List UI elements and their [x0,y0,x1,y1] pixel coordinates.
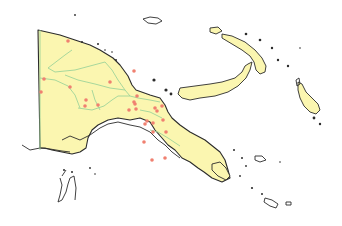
new-britain-island [178,62,252,100]
location-marker [161,118,165,122]
mainland-png [38,30,230,182]
location-marker [135,94,139,98]
manus-island [143,17,162,24]
location-marker [142,140,146,144]
location-marker [132,100,136,104]
location-marker [39,90,43,94]
trobriand-islands [255,156,266,162]
location-marker [108,80,112,84]
location-marker [145,119,149,123]
location-marker [150,158,154,162]
location-marker [160,104,164,108]
location-marker [84,98,88,102]
location-marker [127,108,131,112]
location-marker [151,121,155,125]
location-marker [164,130,168,134]
location-marker [66,39,70,43]
papua-new-guinea-map [0,0,342,226]
location-marker [42,77,46,81]
location-marker [155,109,159,113]
bougainville-island [298,82,320,114]
location-marker [143,122,147,126]
location-marker [151,130,155,134]
louisiade-islands [264,198,278,208]
location-marker [96,103,100,107]
location-marker [134,107,138,111]
rossel-island [286,202,291,205]
new-hanover-island [210,27,222,34]
location-marker [132,69,136,73]
location-marker [163,156,167,160]
southwest-coast [58,170,76,202]
location-marker [153,106,157,110]
location-marker [68,85,72,89]
location-marker [83,104,87,108]
